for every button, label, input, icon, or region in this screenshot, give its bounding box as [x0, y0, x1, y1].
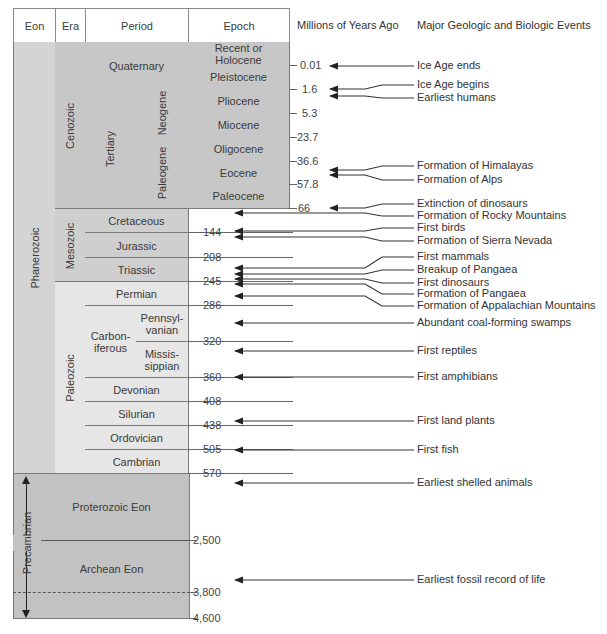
event-label: Extinction of dinosaurs [417, 197, 528, 209]
event-label: Formation of Himalayas [417, 159, 533, 171]
event-label: Earliest shelled animals [417, 476, 533, 488]
event-label: First fish [417, 443, 459, 455]
event-label: Formation of Rocky Mountains [417, 209, 566, 221]
event-label: Formation of Pangaea [417, 287, 526, 299]
event-label: Ice Age ends [417, 59, 481, 71]
event-label: First mammals [417, 250, 489, 262]
event-label: Earliest humans [417, 91, 496, 103]
event-label: Earliest fossil record of life [417, 573, 545, 585]
event-label: Abundant coal-forming swamps [417, 316, 571, 328]
event-label: Breakup of Pangaea [417, 263, 517, 275]
event-label: First reptiles [417, 344, 477, 356]
event-label: First birds [417, 221, 465, 233]
event-label: Formation of Sierra Nevada [417, 234, 552, 246]
event-label: First amphibians [417, 370, 498, 382]
event-label: First land plants [417, 414, 495, 426]
event-label: Ice Age begins [417, 78, 489, 90]
event-label: Formation of Alps [417, 173, 503, 185]
event-label: Formation of Appalachian Mountains [417, 299, 596, 311]
